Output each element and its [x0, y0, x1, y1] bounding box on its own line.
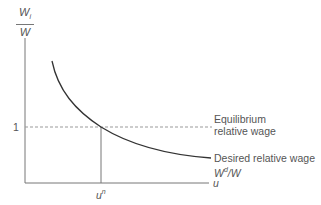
desired-relative-wage-label: Desired relative wage Wd/W — [214, 152, 315, 179]
y-axis-label: Wi W — [14, 6, 36, 39]
y-tick-label-1: 1 — [13, 121, 19, 133]
x-tick-label-un: un — [96, 186, 106, 201]
equilibrium-label: Equilibrium relative wage — [214, 113, 276, 137]
desired-relative-wage-curve — [52, 61, 211, 158]
x-axis-label: u — [213, 177, 219, 189]
